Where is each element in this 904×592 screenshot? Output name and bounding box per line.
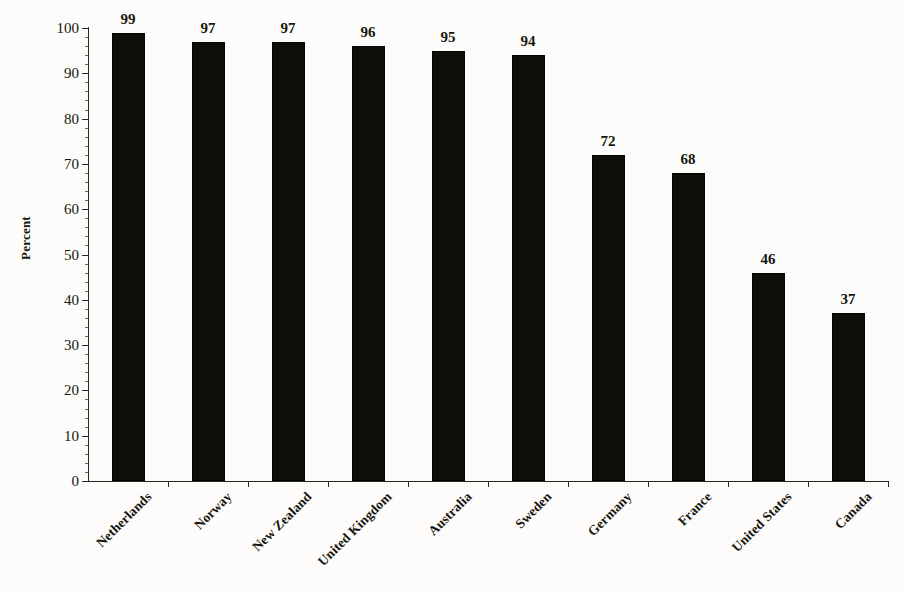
- y-tick-minor-mark: [85, 191, 88, 192]
- bar-value-label: 95: [441, 29, 456, 46]
- y-tick-mark: [82, 390, 89, 391]
- x-tick-mark: [808, 481, 809, 487]
- bar-chart-figure: Percent 0102030405060708090100 999797969…: [0, 0, 904, 592]
- y-tick-minor-mark: [85, 182, 88, 183]
- y-tick-minor-mark: [85, 264, 88, 265]
- bar-group[interactable]: 97: [192, 28, 225, 481]
- y-tick-minor-mark: [85, 110, 88, 111]
- y-tick-minor-mark: [85, 399, 88, 400]
- x-tick-mark: [648, 481, 649, 487]
- y-tick-minor-mark: [85, 463, 88, 464]
- bar-group[interactable]: 95: [432, 28, 465, 481]
- bar-group[interactable]: 99: [112, 28, 145, 481]
- y-tick-minor-mark: [85, 291, 88, 292]
- y-tick-mark: [82, 255, 89, 256]
- bar[interactable]: [352, 46, 385, 481]
- y-tick-minor-mark: [85, 309, 88, 310]
- bar[interactable]: [512, 55, 545, 481]
- y-tick-minor-mark: [85, 445, 88, 446]
- y-tick-minor-mark: [85, 128, 88, 129]
- y-tick-minor-mark: [85, 363, 88, 364]
- bar-group[interactable]: 94: [512, 28, 545, 481]
- x-axis-label-united-states: United States: [729, 489, 796, 556]
- y-tick-minor-mark: [85, 227, 88, 228]
- x-tick-mark: [328, 481, 329, 487]
- bar-group[interactable]: 97: [272, 28, 305, 481]
- bar[interactable]: [672, 173, 705, 481]
- bar-value-label: 68: [681, 151, 696, 168]
- x-axis-label-australia: Australia: [425, 489, 475, 539]
- x-tick-mark: [488, 481, 489, 487]
- bar-value-label: 72: [601, 133, 616, 150]
- bar[interactable]: [432, 51, 465, 481]
- y-tick-minor-mark: [85, 418, 88, 419]
- y-tick-mark: [82, 119, 89, 120]
- x-axis-label-germany: Germany: [585, 489, 636, 540]
- y-tick-label: 90: [64, 65, 79, 82]
- bar-group[interactable]: 68: [672, 28, 705, 481]
- y-tick-minor-mark: [85, 137, 88, 138]
- y-tick-mark: [82, 481, 89, 482]
- y-tick-mark: [82, 436, 89, 437]
- x-axis-label-canada: Canada: [832, 489, 876, 533]
- y-tick-minor-mark: [85, 381, 88, 382]
- y-tick-label: 30: [64, 337, 79, 354]
- x-axis-label-netherlands: Netherlands: [93, 489, 155, 551]
- y-tick-label: 100: [57, 20, 80, 37]
- y-tick-label: 0: [72, 473, 80, 490]
- y-tick-minor-mark: [85, 55, 88, 56]
- plot-area: 0102030405060708090100 99979796959472684…: [88, 28, 888, 481]
- y-tick-minor-mark: [85, 82, 88, 83]
- y-tick-mark: [82, 28, 89, 29]
- bar-group[interactable]: 46: [752, 28, 785, 481]
- y-tick-minor-mark: [85, 472, 88, 473]
- y-tick-minor-mark: [85, 100, 88, 101]
- bar-value-label: 97: [281, 20, 296, 37]
- bar[interactable]: [752, 273, 785, 481]
- y-tick-minor-mark: [85, 282, 88, 283]
- y-tick-mark: [82, 164, 89, 165]
- y-tick-minor-mark: [85, 245, 88, 246]
- y-tick-label: 10: [64, 427, 79, 444]
- bar[interactable]: [592, 155, 625, 481]
- bar[interactable]: [112, 33, 145, 481]
- bar-value-label: 94: [521, 33, 536, 50]
- x-tick-mark: [888, 481, 889, 487]
- y-tick-minor-mark: [85, 409, 88, 410]
- x-axis-label-france: France: [675, 489, 715, 529]
- y-axis-title: Percent: [18, 193, 38, 283]
- y-tick-minor-mark: [85, 173, 88, 174]
- x-axis-label-new-zealand: New Zealand: [249, 489, 315, 555]
- y-tick-label: 40: [64, 291, 79, 308]
- bar[interactable]: [272, 42, 305, 481]
- y-tick-mark: [82, 209, 89, 210]
- bar-group[interactable]: 96: [352, 28, 385, 481]
- y-tick-label: 50: [64, 246, 79, 263]
- y-tick-minor-mark: [85, 454, 88, 455]
- bar-value-label: 37: [841, 291, 856, 308]
- y-tick-minor-mark: [85, 91, 88, 92]
- x-axis-label-sweden: Sweden: [512, 489, 555, 532]
- bar-value-label: 97: [201, 20, 216, 37]
- y-tick-label: 70: [64, 155, 79, 172]
- x-tick-mark: [408, 481, 409, 487]
- bar[interactable]: [832, 313, 865, 481]
- bar-group[interactable]: 72: [592, 28, 625, 481]
- bar-value-label: 46: [761, 251, 776, 268]
- x-axis-label-norway: Norway: [191, 489, 235, 533]
- y-tick-minor-mark: [85, 354, 88, 355]
- bar-value-label: 99: [121, 11, 136, 28]
- y-tick-label: 80: [64, 110, 79, 127]
- y-tick-minor-mark: [85, 155, 88, 156]
- y-tick-minor-mark: [85, 372, 88, 373]
- y-tick-minor-mark: [85, 218, 88, 219]
- y-tick-minor-mark: [85, 64, 88, 65]
- y-tick-label: 60: [64, 201, 79, 218]
- y-tick-minor-mark: [85, 327, 88, 328]
- x-tick-mark: [248, 481, 249, 487]
- y-tick-minor-mark: [85, 336, 88, 337]
- bar-group[interactable]: 37: [832, 28, 865, 481]
- y-tick-mark: [82, 345, 89, 346]
- y-tick-minor-mark: [85, 273, 88, 274]
- bar[interactable]: [192, 42, 225, 481]
